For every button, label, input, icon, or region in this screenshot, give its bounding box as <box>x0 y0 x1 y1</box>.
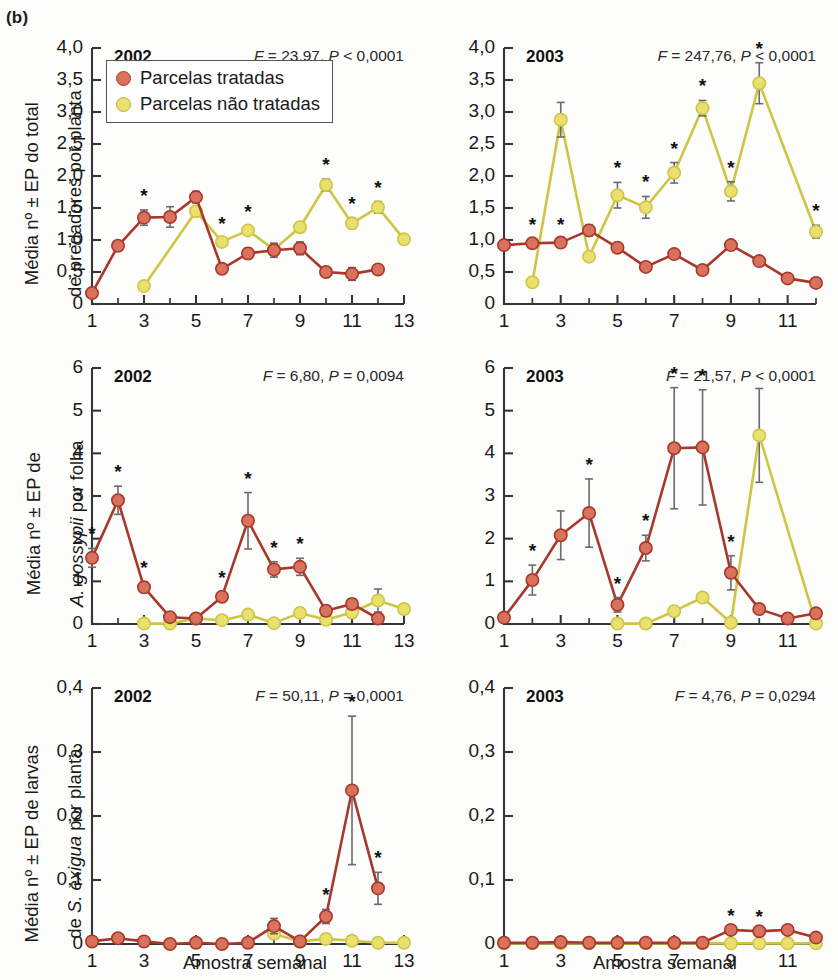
significance-star: * <box>218 567 226 588</box>
y-tick-label: 2,5 <box>469 132 495 153</box>
plot-exigua-2003: 00,10,20,30,413579112003F = 4,76, P = 0,… <box>412 666 832 980</box>
series-line-treated <box>504 447 816 618</box>
panel-year-title: 2003 <box>526 687 564 706</box>
data-point-marker <box>526 937 538 949</box>
y-tick-label: 4 <box>72 441 83 462</box>
y-tick-label: 0,2 <box>57 804 83 825</box>
data-point-marker <box>190 612 202 624</box>
data-point-marker <box>164 611 176 623</box>
x-tick-label: 11 <box>342 630 362 651</box>
x-tick-label: 11 <box>778 630 798 651</box>
panel-year-title: 2003 <box>526 47 564 66</box>
significance-star: * <box>114 461 122 482</box>
y-tick-label: 3,5 <box>469 68 495 89</box>
x-tick-label: 5 <box>191 630 202 651</box>
data-point-marker <box>268 244 280 256</box>
y-tick-label: 4 <box>484 441 495 462</box>
y-tick-label: 0 <box>72 292 83 313</box>
data-point-marker <box>696 264 708 276</box>
x-tick-label: 7 <box>669 950 680 971</box>
x-tick-label: 11 <box>342 310 362 331</box>
figure-panel-b: (b) Média nº ± EP do total de predadores… <box>0 0 838 980</box>
significance-star: * <box>727 531 735 552</box>
data-point-marker <box>725 239 737 251</box>
significance-star: * <box>699 75 707 96</box>
data-point-marker <box>583 507 595 519</box>
panel-stats-annotation: F = 4,76, P = 0,0294 <box>675 687 817 704</box>
legend-label-treated: Parcelas tratadas <box>140 67 284 89</box>
y-tick-label: 0,1 <box>57 868 83 889</box>
data-point-marker <box>372 201 384 213</box>
significance-star: * <box>727 905 735 926</box>
significance-star: * <box>270 537 278 558</box>
y-tick-label: 0,3 <box>469 740 495 761</box>
panel-year-title: 2003 <box>526 367 564 386</box>
data-point-marker <box>164 211 176 223</box>
data-point-marker <box>668 248 680 260</box>
data-point-marker <box>640 201 652 213</box>
data-point-marker <box>294 935 306 947</box>
y-tick-label: 1,5 <box>469 196 495 217</box>
data-point-marker <box>555 236 567 248</box>
data-point-marker <box>696 102 708 114</box>
y-tick-label: 5 <box>72 399 83 420</box>
data-point-marker <box>138 617 150 629</box>
significance-star: * <box>322 884 330 905</box>
legend-item-treated: Parcelas tratadas <box>116 65 320 91</box>
data-point-marker <box>583 250 595 262</box>
x-tick-label: 9 <box>295 310 306 331</box>
data-point-marker <box>372 594 384 606</box>
x-tick-label: 9 <box>726 630 737 651</box>
significance-star: * <box>557 214 565 235</box>
data-point-marker <box>216 236 228 248</box>
panel-stats-annotation: F = 50,11, P = 0,0001 <box>255 687 404 704</box>
data-point-marker <box>268 617 280 629</box>
significance-star: * <box>614 573 622 594</box>
y-tick-label: 0 <box>484 932 495 953</box>
significance-star: * <box>642 171 650 192</box>
significance-star: * <box>614 157 622 178</box>
x-tick-label: 5 <box>612 310 623 331</box>
y-tick-label: 1,0 <box>57 228 83 249</box>
significance-star: * <box>244 468 252 489</box>
significance-star: * <box>727 157 735 178</box>
data-point-marker <box>498 611 510 623</box>
y-tick-label: 0,5 <box>57 260 83 281</box>
x-tick-label: 1 <box>87 630 98 651</box>
significance-star: * <box>374 847 382 868</box>
x-tick-label: 1 <box>499 630 510 651</box>
y-tick-label: 1 <box>484 569 495 590</box>
significance-star: * <box>140 185 148 206</box>
x-tick-label: 3 <box>555 630 566 651</box>
data-point-marker <box>526 276 538 288</box>
x-tick-label: 9 <box>726 310 737 331</box>
data-point-marker <box>781 937 793 949</box>
data-point-marker <box>810 225 822 237</box>
data-point-marker <box>138 280 150 292</box>
x-tick-label: 5 <box>612 950 623 971</box>
y-tick-label: 0 <box>484 292 495 313</box>
x-tick-label: 11 <box>778 310 798 331</box>
data-point-marker <box>398 603 410 615</box>
y-tick-label: 0 <box>484 612 495 633</box>
y-tick-label: 1,0 <box>469 228 495 249</box>
series-line-treated <box>92 197 378 293</box>
series-line-treated <box>504 230 816 283</box>
x-tick-label: 11 <box>778 950 798 971</box>
data-point-marker <box>583 937 595 949</box>
y-tick-label: 6 <box>484 356 495 377</box>
x-tick-label: 3 <box>139 950 150 971</box>
data-point-marker <box>294 561 306 573</box>
y-tick-label: 2,5 <box>57 132 83 153</box>
data-point-marker <box>668 442 680 454</box>
significance-star: * <box>374 177 382 198</box>
y-tick-label: 2,0 <box>57 164 83 185</box>
x-tick-label: 1 <box>87 950 98 971</box>
data-point-marker <box>346 598 358 610</box>
data-point-marker <box>753 937 765 949</box>
data-point-marker <box>498 937 510 949</box>
series-line-treated <box>92 500 378 618</box>
y-tick-label: 0,2 <box>469 804 495 825</box>
data-point-marker <box>668 937 680 949</box>
significance-star: * <box>296 533 304 554</box>
